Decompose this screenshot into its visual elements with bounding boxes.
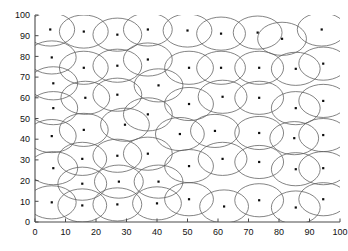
node-marker: [116, 34, 118, 36]
x-tick-label: 90: [304, 227, 314, 237]
node-marker: [220, 33, 222, 35]
node-marker: [147, 113, 149, 115]
node-marker: [83, 30, 85, 32]
node-marker: [52, 167, 54, 169]
x-tick-label: 70: [243, 227, 253, 237]
node-marker: [49, 28, 51, 30]
y-tick-label: 30: [20, 155, 30, 165]
node-marker: [322, 134, 324, 136]
node-marker: [258, 199, 260, 201]
y-tick-label: 60: [20, 93, 30, 103]
node-marker: [188, 103, 190, 105]
node-marker: [157, 84, 159, 86]
node-marker: [221, 158, 223, 160]
y-tick-label: 50: [20, 114, 30, 124]
node-marker: [221, 96, 223, 98]
node-marker: [258, 97, 260, 99]
node-marker: [52, 82, 54, 84]
node-marker: [188, 67, 190, 69]
node-marker: [83, 67, 85, 69]
y-tick-label: 40: [20, 134, 30, 144]
x-tick-label: 40: [152, 227, 162, 237]
node-marker: [322, 198, 324, 200]
node-marker: [258, 67, 260, 69]
node-marker: [220, 67, 222, 69]
node-marker: [257, 31, 259, 33]
node-marker: [322, 167, 324, 169]
node-marker: [81, 158, 83, 160]
y-tick-label: 80: [20, 52, 30, 62]
node-marker: [295, 168, 297, 170]
node-marker: [214, 130, 216, 132]
node-marker: [83, 129, 85, 131]
node-marker: [81, 183, 83, 185]
node-marker: [52, 107, 54, 109]
node-marker: [116, 203, 118, 205]
node-marker: [118, 181, 120, 183]
node-marker: [157, 181, 159, 183]
x-tick-label: 60: [213, 227, 223, 237]
x-tick-label: 10: [60, 227, 70, 237]
x-tick-label: 20: [91, 227, 101, 237]
node-marker: [258, 132, 260, 134]
y-tick-label: 90: [20, 31, 30, 41]
node-marker: [258, 161, 260, 163]
figure-background: [0, 0, 348, 251]
node-marker: [295, 206, 297, 208]
x-tick-label: 50: [182, 227, 192, 237]
node-marker: [51, 56, 53, 58]
node-marker: [84, 97, 86, 99]
node-marker: [186, 29, 188, 31]
node-marker: [295, 68, 297, 70]
node-marker: [51, 201, 53, 203]
node-marker: [147, 58, 149, 60]
y-tick-label: 10: [20, 197, 30, 207]
y-tick-label: 70: [20, 72, 30, 82]
y-tick-label: 100: [15, 10, 30, 20]
node-marker: [322, 63, 324, 65]
node-marker: [293, 137, 295, 139]
node-marker: [295, 107, 297, 109]
node-marker: [156, 202, 158, 204]
node-marker: [281, 38, 283, 40]
x-tick-label: 80: [274, 227, 284, 237]
node-marker: [322, 100, 324, 102]
node-marker: [116, 65, 118, 67]
node-marker: [179, 133, 181, 135]
x-tick-label: 100: [332, 227, 347, 237]
x-tick-label: 30: [121, 227, 131, 237]
node-marker: [81, 204, 83, 206]
node-marker: [116, 155, 118, 157]
node-marker: [147, 153, 149, 155]
node-marker: [223, 205, 225, 207]
node-marker: [321, 28, 323, 30]
node-marker: [147, 28, 149, 30]
node-marker: [188, 198, 190, 200]
y-tick-label: 20: [20, 176, 30, 186]
plot-canvas: 0102030405060708090100 01020304050607080…: [0, 0, 348, 251]
node-marker: [188, 165, 190, 167]
node-marker: [116, 94, 118, 96]
x-tick-label: 0: [32, 227, 37, 237]
y-tick-label: 0: [25, 217, 30, 227]
node-marker: [124, 124, 126, 126]
node-marker: [51, 135, 53, 137]
coverage-scatter-figure: 0102030405060708090100 01020304050607080…: [0, 0, 348, 251]
